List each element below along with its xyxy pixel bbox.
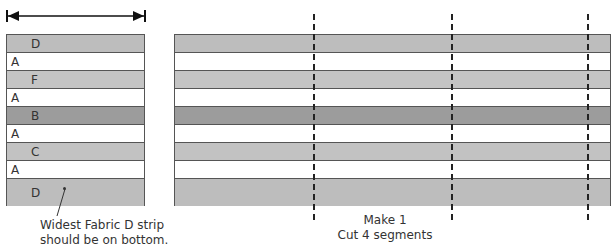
callout-leader-line bbox=[55, 188, 67, 218]
strip-d bbox=[175, 179, 610, 206]
fabric-label: A bbox=[11, 127, 19, 141]
cut-line-1 bbox=[313, 14, 315, 220]
fabric-label: A bbox=[11, 55, 19, 69]
strip-c bbox=[175, 143, 610, 161]
callout-line-1: Widest Fabric D strip bbox=[40, 218, 180, 233]
strip-a: A bbox=[7, 161, 144, 179]
width-arrow bbox=[6, 7, 146, 19]
make-count: Make 1 bbox=[330, 213, 440, 228]
strip-c: C bbox=[7, 143, 144, 161]
strip-a bbox=[175, 125, 610, 143]
strip-b: B bbox=[7, 107, 144, 125]
fabric-label: F bbox=[31, 73, 38, 87]
strip-set-full-length bbox=[174, 34, 611, 206]
fabric-label: D bbox=[31, 186, 40, 200]
cut-count: Cut 4 segments bbox=[330, 228, 440, 243]
strip-set-diagram: DAFABACAD bbox=[6, 34, 145, 206]
fabric-label: C bbox=[31, 145, 39, 159]
strip-a bbox=[175, 161, 610, 179]
callout-text: Widest Fabric D strip should be on botto… bbox=[40, 218, 180, 248]
cut-line-2 bbox=[451, 14, 453, 220]
strip-a: A bbox=[7, 125, 144, 143]
callout-line-2: should be on bottom. bbox=[40, 233, 180, 248]
strip-a bbox=[175, 53, 610, 71]
fabric-label: A bbox=[11, 91, 19, 105]
strip-d: D bbox=[7, 179, 144, 206]
double-arrow-icon bbox=[6, 10, 146, 22]
fabric-label: D bbox=[31, 37, 40, 51]
fabric-label: A bbox=[11, 163, 19, 177]
strip-b bbox=[175, 107, 610, 125]
cut-line-3 bbox=[587, 14, 589, 220]
instructions: Make 1 Cut 4 segments bbox=[330, 213, 440, 243]
strip-a: A bbox=[7, 53, 144, 71]
fabric-label: B bbox=[31, 109, 39, 123]
strip-a bbox=[175, 89, 610, 107]
strip-a: A bbox=[7, 89, 144, 107]
strip-d bbox=[175, 35, 610, 53]
strip-f bbox=[175, 71, 610, 89]
strip-f: F bbox=[7, 71, 144, 89]
strip-d: D bbox=[7, 35, 144, 53]
